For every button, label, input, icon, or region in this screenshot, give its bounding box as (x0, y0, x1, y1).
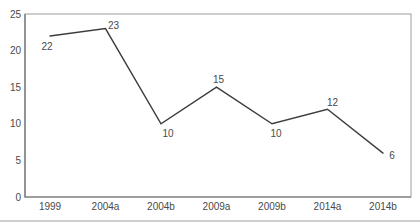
page-bottom-rule (0, 220, 420, 222)
x-tick-label: 2014a (314, 201, 342, 212)
x-tick-label: 2014b (369, 201, 397, 212)
data-line (50, 29, 383, 154)
data-point-label: 12 (327, 97, 339, 108)
y-tick-label: 25 (10, 9, 22, 20)
x-tick-label: 2009b (258, 201, 286, 212)
data-point-label: 10 (162, 128, 174, 139)
data-point-label: 23 (108, 20, 120, 31)
y-tick-label: 10 (10, 118, 22, 129)
chart-canvas: 051015202519992004a2004b2009a2009b2014a2… (0, 0, 420, 224)
y-tick-label: 15 (10, 82, 22, 93)
x-tick-label: 2004a (92, 201, 120, 212)
plot-border (25, 14, 411, 197)
x-tick-label: 2004b (147, 201, 175, 212)
y-tick-label: 20 (10, 45, 22, 56)
x-tick-label: 2009a (203, 201, 231, 212)
chart-figure: 051015202519992004a2004b2009a2009b2014a2… (0, 0, 420, 224)
x-tick-label: 1999 (39, 201, 62, 212)
axis-lines (25, 14, 411, 197)
data-point-label: 6 (389, 150, 395, 161)
data-point-label: 22 (41, 41, 53, 52)
data-point-label: 10 (270, 128, 282, 139)
data-point-label: 15 (213, 74, 225, 85)
y-tick-label: 0 (15, 192, 21, 203)
y-tick-label: 5 (15, 155, 21, 166)
